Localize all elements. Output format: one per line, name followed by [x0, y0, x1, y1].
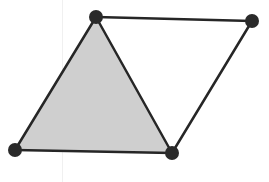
shaded-triangle [15, 17, 172, 153]
vertex-top [89, 10, 103, 24]
parallelogram-diagram [0, 0, 269, 182]
vertex-bottom-right [165, 146, 179, 160]
vertex-top-right [245, 14, 259, 28]
vertex-bottom-left [8, 143, 22, 157]
edge-right [172, 21, 252, 153]
edge-top [96, 17, 252, 21]
